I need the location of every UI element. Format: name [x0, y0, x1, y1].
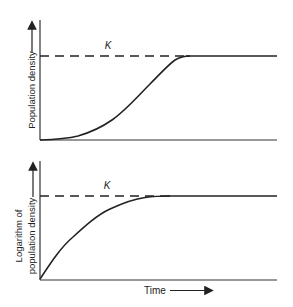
- logistic-growth-figure: K Population density K Logarithm of popu…: [0, 0, 293, 307]
- top-k-label: K: [105, 40, 113, 51]
- top-y-label-group: Population density: [26, 25, 37, 129]
- x-label-group: Time: [144, 285, 209, 296]
- bottom-k-label: K: [104, 180, 112, 191]
- bottom-y-axis-label-line2: population density: [26, 197, 37, 274]
- bottom-saturating-curve: [40, 196, 170, 279]
- x-axis-label: Time: [144, 285, 166, 296]
- top-sigmoid-curve: [40, 56, 190, 140]
- bottom-y-axis-label-line1: Logarithm of: [13, 209, 24, 262]
- top-chart: K Population density: [26, 20, 277, 140]
- bottom-y-label-group: Logarithm of population density: [13, 166, 37, 274]
- bottom-chart: K Logarithm of population density Time: [13, 161, 277, 296]
- top-y-axis-label: Population density: [26, 51, 37, 129]
